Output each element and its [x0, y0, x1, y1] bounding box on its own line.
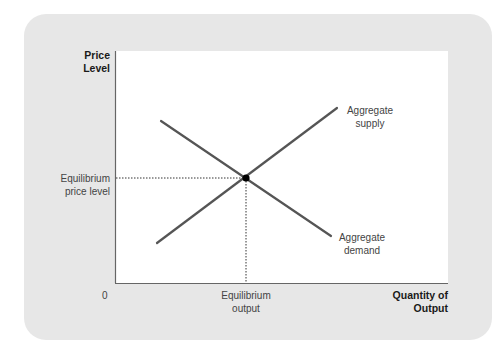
aggregate-supply-label: Aggregate supply: [340, 104, 400, 130]
y-axis-label: Price Level: [60, 49, 110, 75]
equilibrium-price-label: Equilibrium price level: [30, 172, 110, 198]
equilibrium-point: [242, 174, 249, 181]
aggregate-demand-label: Aggregate demand: [332, 231, 392, 257]
origin-label: 0: [102, 289, 108, 302]
x-axis-label: Quantity of Output: [368, 289, 448, 315]
equilibrium-output-label: Equilibrium output: [206, 289, 286, 315]
